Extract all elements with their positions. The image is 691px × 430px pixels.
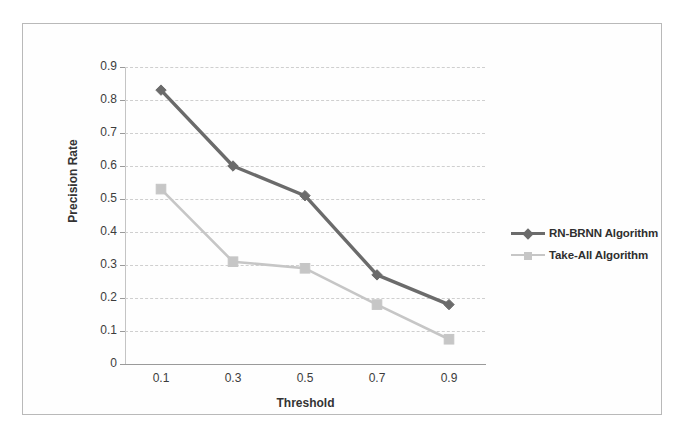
x-axis-title: Threshold: [125, 396, 486, 410]
legend-label: Take-All Algorithm: [549, 249, 648, 261]
y-axis-tick-label: 0.5: [77, 192, 117, 204]
x-axis-tick-label: 0.1: [153, 371, 170, 385]
x-axis-tick-labels: 0.10.30.50.70.9: [125, 371, 486, 389]
y-axis-tick-label: 0.4: [77, 225, 117, 237]
y-axis-tick-label: 0.9: [77, 60, 117, 72]
legend-square-icon: [511, 249, 545, 261]
data-point-marker: [444, 334, 454, 344]
figure-frame: Precision Rate 0.90.80.70.60.50.40.30.20…: [22, 23, 662, 415]
y-axis-tick-labels: 0.90.80.70.60.50.40.30.20.10: [71, 24, 117, 414]
legend-label: RN-BRNN Algorithm: [549, 227, 658, 239]
data-point-marker: [300, 264, 310, 274]
plot-area: [125, 67, 485, 364]
chart-legend: RN-BRNN AlgorithmTake-All Algorithm: [511, 222, 681, 266]
y-axis-tick-label: 0: [77, 357, 117, 369]
data-point-marker: [156, 184, 166, 194]
y-axis-tick-label: 0.8: [77, 93, 117, 105]
x-axis-tick-label: 0.7: [369, 371, 386, 385]
x-axis-tick-label: 0.5: [297, 371, 314, 385]
y-axis-tick-label: 0.1: [77, 324, 117, 336]
legend-diamond-icon: [511, 227, 545, 239]
y-axis-tick-label: 0.6: [77, 159, 117, 171]
legend-item[interactable]: RN-BRNN Algorithm: [511, 222, 681, 244]
legend-item[interactable]: Take-All Algorithm: [511, 244, 681, 266]
series-layer: [125, 67, 485, 364]
y-axis-tick: [120, 364, 125, 365]
x-axis-tick-label: 0.3: [225, 371, 242, 385]
y-axis-tick-label: 0.3: [77, 258, 117, 270]
y-axis-tick-label: 0.7: [77, 126, 117, 138]
data-point-marker: [444, 299, 454, 309]
data-point-marker: [228, 257, 238, 267]
data-point-marker: [372, 300, 382, 310]
x-axis-line: [125, 364, 486, 365]
y-axis-tick-label: 0.2: [77, 291, 117, 303]
x-axis-tick-label: 0.9: [441, 371, 458, 385]
